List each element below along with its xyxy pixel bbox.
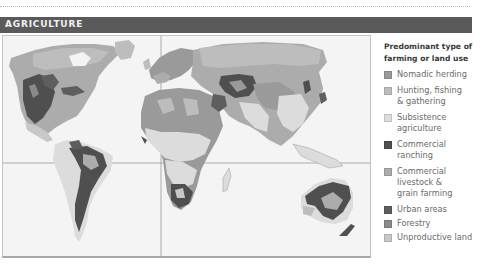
legend-title-line2: farming or land use xyxy=(384,54,468,63)
asia xyxy=(191,42,343,168)
world-land-use-map xyxy=(3,36,371,258)
legend-item-forestry: Forestry xyxy=(384,218,493,229)
legend-label: Hunting, fishing & gathering xyxy=(397,85,493,107)
subsistence-swatch xyxy=(384,114,392,122)
legend-item-nomadic-herding: Nomadic herding xyxy=(384,69,493,80)
legend-label: Forestry xyxy=(397,218,493,229)
unproductive-land-swatch xyxy=(384,234,392,242)
europe xyxy=(143,48,197,84)
urban-areas-swatch xyxy=(384,206,392,214)
legend-item-commercial-ranching: Commercial ranching xyxy=(384,139,493,161)
legend-item-unproductive-land: Unproductive land xyxy=(384,232,493,243)
legend-label: Urban areas xyxy=(397,204,493,215)
australia xyxy=(301,178,355,236)
nomadic-herding-swatch xyxy=(384,71,392,79)
legend-label: Nomadic herding xyxy=(397,69,493,80)
hunting-fishing-swatch xyxy=(384,87,392,95)
legend-label: Unproductive land xyxy=(397,232,493,243)
legend-item-urban-areas: Urban areas xyxy=(384,204,493,215)
legend-item-commercial-livestock: Commercial livestock & grain farming xyxy=(384,166,493,199)
dotted-divider xyxy=(0,6,470,7)
world-map xyxy=(2,35,371,258)
commercial-livestock-swatch xyxy=(384,168,392,176)
legend-title-line1: Predominant type of xyxy=(384,42,472,51)
legend-item-subsistence: Subsistence agriculture xyxy=(384,112,493,134)
commercial-ranching-swatch xyxy=(384,141,392,149)
map-legend: Predominant type of farming or land use … xyxy=(384,41,493,248)
legend-label: Commercial livestock & grain farming xyxy=(397,166,493,199)
legend-label: Subsistence agriculture xyxy=(397,112,493,134)
legend-item-hunting-fishing: Hunting, fishing & gathering xyxy=(384,85,493,107)
section-title: AGRICULTURE xyxy=(5,19,83,29)
section-header: AGRICULTURE xyxy=(0,17,472,33)
north-america xyxy=(9,40,135,142)
forestry-swatch xyxy=(384,220,392,228)
south-america xyxy=(53,140,113,242)
legend-title: Predominant type of farming or land use xyxy=(384,41,493,65)
legend-label: Commercial ranching xyxy=(397,139,493,161)
